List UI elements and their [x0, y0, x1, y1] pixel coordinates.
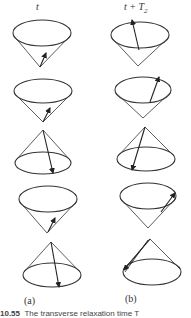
column-b-time-label: t + T2	[124, 1, 148, 15]
precession-cones-diagram	[0, 0, 191, 318]
cone-base-ellipse	[23, 263, 81, 287]
cones-layer	[13, 20, 181, 287]
cone-b-5	[123, 239, 181, 285]
cone-side-right	[143, 93, 170, 118]
cone-base-ellipse	[15, 152, 71, 174]
cone-a-1	[13, 20, 71, 67]
panel-label-b: (b)	[125, 293, 137, 304]
cone-base-ellipse	[19, 186, 77, 212]
cone-base-ellipse	[117, 147, 175, 171]
cone-a-3	[15, 130, 71, 174]
magnetization-vector-arrow-icon	[40, 53, 46, 67]
cone-a-2	[14, 79, 72, 122]
magnetization-vector-arrow-icon	[43, 108, 50, 122]
cone-base-ellipse	[120, 183, 176, 209]
cone-side-left	[16, 130, 43, 160]
cone-side-left	[24, 242, 51, 272]
figure-caption-text: The transverse relaxation time T	[24, 309, 139, 318]
magnetization-vector-arrow-icon	[132, 20, 139, 50]
column-b-time-subscript: 2	[144, 7, 148, 15]
column-a-time-label: t	[36, 1, 39, 12]
cone-base-ellipse	[111, 22, 169, 48]
cone-side-left	[116, 93, 143, 118]
column-a-time-text: t	[36, 1, 39, 12]
figure-number: 10.55	[0, 309, 20, 318]
cone-b-4	[120, 183, 176, 228]
panel-label-a: (a)	[24, 295, 35, 306]
cone-base-ellipse	[13, 20, 71, 46]
cone-b-2	[115, 77, 171, 118]
magnetization-vector-arrow-icon	[124, 239, 150, 270]
figure-caption: 10.55 The transverse relaxation time T	[0, 309, 191, 318]
cone-base-ellipse	[14, 79, 72, 103]
cone-a-4	[19, 186, 77, 233]
cone-b-1	[111, 20, 169, 66]
column-b-time-text: t + T	[124, 1, 144, 12]
cone-base-ellipse	[115, 77, 171, 103]
cone-a-5	[23, 242, 81, 287]
magnetization-vector-arrow-icon	[150, 77, 159, 102]
cone-b-3	[117, 127, 175, 171]
